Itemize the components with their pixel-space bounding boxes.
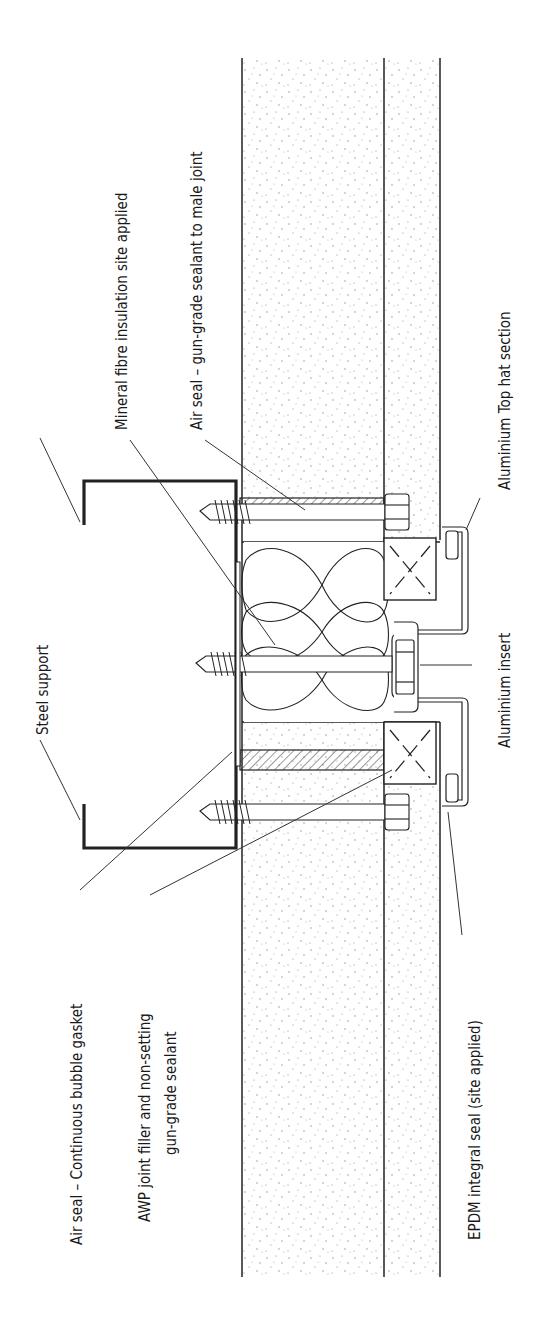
joint-section-diagram: Steel support Air seal – Continuous bubb… xyxy=(0,0,555,1318)
label-steel-support: Steel support xyxy=(34,645,52,735)
label-air-seal-male-joint: Air seal – gun-grade sealant to male joi… xyxy=(188,151,206,430)
label-mineral-fibre: Mineral fibre insulation site applied xyxy=(113,193,131,430)
label-aluminium-top-hat: Aluminium Top hat section xyxy=(496,311,514,490)
label-awp-filler-line2: gun-grade sealant xyxy=(162,1031,180,1155)
label-epdm-seal: EPDM integral seal (site applied) xyxy=(466,1020,484,1240)
aluminium-insert xyxy=(394,622,418,712)
mineral-fibre-insulation xyxy=(242,542,389,722)
label-awp-filler-line1: AWP joint filler and non-setting xyxy=(136,1013,154,1222)
panel-upper xyxy=(242,58,440,538)
label-aluminium-insert: Aluminium insert xyxy=(496,633,514,748)
label-air-seal-bubble-gasket: Air seal – Continuous bubble gasket xyxy=(68,1004,86,1245)
